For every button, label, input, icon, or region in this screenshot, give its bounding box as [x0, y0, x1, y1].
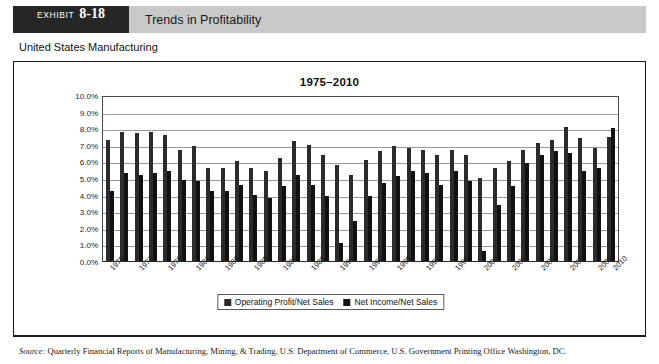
bar [296, 175, 300, 261]
bar [268, 198, 272, 261]
bar [497, 205, 501, 261]
exhibit-page: EXHIBIT 8-18 Trends in Profitability Uni… [0, 0, 659, 364]
bar-group [332, 97, 346, 261]
bar-group [160, 97, 174, 261]
source-divider [13, 335, 646, 337]
bar [478, 178, 482, 261]
bar [454, 171, 458, 261]
y-axis-tick-label: 8.0% [80, 125, 98, 134]
exhibit-number: 8-18 [79, 6, 105, 22]
bar-group [375, 97, 389, 261]
bar-group [561, 97, 575, 261]
subheader-text: United States Manufacturing [13, 41, 158, 53]
bar [597, 168, 601, 261]
bar [139, 175, 143, 261]
bar-groups [103, 97, 618, 261]
legend-item: Net Income/Net Sales [344, 297, 438, 307]
bar [540, 155, 544, 261]
bar-group [146, 97, 160, 261]
bar-group [547, 97, 561, 261]
bar-group [232, 97, 246, 261]
bar [239, 185, 243, 261]
bar [582, 171, 586, 261]
exhibit-label: EXHIBIT [37, 10, 74, 20]
bar-group [346, 97, 360, 261]
bar-group [189, 97, 203, 261]
y-axis-tick-label: 5.0% [80, 175, 98, 184]
bar [411, 171, 415, 261]
bar [611, 128, 615, 261]
bar [325, 196, 329, 261]
bar [182, 180, 186, 261]
bar-group [303, 97, 317, 261]
y-axis-tick-label: 9.0% [80, 108, 98, 117]
y-axis-tick-label: 4.0% [80, 191, 98, 200]
bar-group [418, 97, 432, 261]
bar-group [475, 97, 489, 261]
source-prefix: Source: [19, 346, 45, 356]
source-text: Quarterly Financial Reports of Manufactu… [45, 346, 566, 356]
bar-group [447, 97, 461, 261]
bar [468, 181, 472, 261]
bar [110, 191, 114, 261]
y-axis-labels: 0.0%1.0%2.0%3.0%4.0%5.0%6.0%7.0%8.0%9.0%… [58, 96, 102, 262]
bar [568, 153, 572, 261]
bar-group [318, 97, 332, 261]
y-axis-tick-label: 10.0% [75, 92, 98, 101]
bar [554, 151, 558, 261]
bar [225, 191, 229, 261]
bar-group [103, 97, 117, 261]
bar [368, 196, 372, 261]
plot-area-wrapper: 0.0%1.0%2.0%3.0%4.0%5.0%6.0%7.0%8.0%9.0%… [14, 62, 647, 335]
bar [124, 173, 128, 261]
bar-group [132, 97, 146, 261]
bar-group [604, 97, 618, 261]
bar-group [218, 97, 232, 261]
y-axis-tick-label: 2.0% [80, 224, 98, 233]
bar [153, 173, 157, 261]
y-axis-tick-label: 7.0% [80, 141, 98, 150]
bar-group [175, 97, 189, 261]
exhibit-title: Trends in Profitability [129, 13, 261, 27]
bar-group [260, 97, 274, 261]
chart-container: 1975–2010 0.0%1.0%2.0%3.0%4.0%5.0%6.0%7.… [13, 62, 646, 335]
exhibit-tag: EXHIBIT 8-18 [13, 6, 129, 33]
bar [196, 181, 200, 261]
y-axis-tick-label: 6.0% [80, 158, 98, 167]
bar [282, 186, 286, 261]
legend-swatch [224, 299, 231, 306]
bar [353, 221, 357, 261]
bar-group [389, 97, 403, 261]
source-note: Source: Quarterly Financial Reports of M… [19, 346, 649, 356]
legend-label: Net Income/Net Sales [355, 297, 438, 307]
exhibit-header: EXHIBIT 8-18 Trends in Profitability [13, 6, 646, 33]
bar [396, 176, 400, 261]
bar-group [361, 97, 375, 261]
bar [253, 195, 257, 261]
bar-group [404, 97, 418, 261]
bar [339, 243, 343, 261]
bar [511, 186, 515, 261]
bar-group [532, 97, 546, 261]
y-axis-tick-label: 3.0% [80, 208, 98, 217]
bar-group [461, 97, 475, 261]
bar-group [203, 97, 217, 261]
bar [482, 251, 486, 261]
y-axis-tick-label: 1.0% [80, 241, 98, 250]
bar-group [289, 97, 303, 261]
bar-group [275, 97, 289, 261]
bar [311, 185, 315, 261]
bar [210, 191, 214, 261]
bar [167, 171, 171, 261]
bar [382, 183, 386, 261]
bar [525, 163, 529, 261]
bar-group [504, 97, 518, 261]
bar-group [117, 97, 131, 261]
y-axis-tick-label: 0.0% [80, 258, 98, 267]
legend-swatch [344, 299, 351, 306]
legend-item: Operating Profit/Net Sales [224, 297, 334, 307]
bar [425, 173, 429, 261]
bar [439, 185, 443, 261]
plot-area [102, 96, 619, 262]
bar-group [590, 97, 604, 261]
